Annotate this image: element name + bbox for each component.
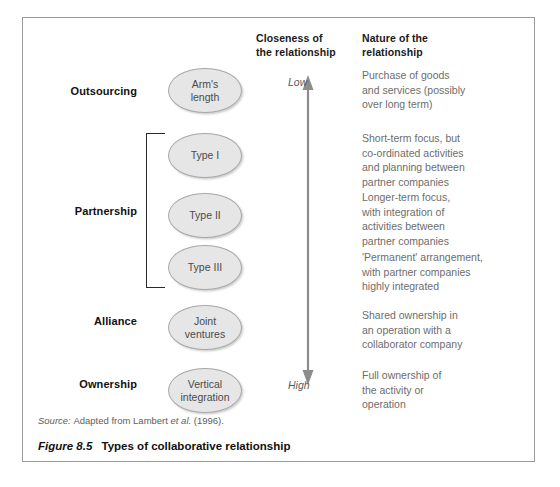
source-etal: et al.	[171, 415, 192, 426]
source-text: Adapted from Lambert	[73, 415, 168, 426]
stage-label-partnership: Partnership	[17, 205, 137, 217]
column-header-nature: Nature of the relationship	[362, 32, 492, 59]
description-type-ii: Longer-term focus, with integration of a…	[362, 190, 514, 248]
double-arrow-icon	[280, 70, 336, 390]
node-label: Arm's length	[191, 78, 220, 104]
node-label: Type III	[188, 261, 222, 274]
stage-label-alliance: Alliance	[17, 315, 137, 327]
figure-title: Types of collaborative relationship	[102, 440, 291, 452]
node-type-iii: Type III	[168, 245, 242, 290]
figure-container: Closeness of the relationship Nature of …	[0, 0, 560, 487]
node-label: Type I	[191, 149, 220, 162]
stage-label-outsourcing: Outsourcing	[17, 85, 137, 97]
description-alliance: Shared ownership in an operation with a …	[362, 308, 514, 352]
description-type-i: Short-term focus, but co-ordinated activ…	[362, 131, 514, 189]
node-arms-length: Arm's length	[168, 68, 242, 113]
node-label: Vertical integration	[180, 378, 229, 404]
source-year: (1996).	[194, 415, 224, 426]
source-prefix: Source:	[38, 415, 71, 426]
column-header-closeness: Closeness of the relationship	[256, 32, 352, 59]
source-note: Source: Adapted from Lambert et al. (199…	[38, 415, 224, 426]
description-outsourcing: Purchase of goods and services (possibly…	[362, 68, 514, 112]
node-label: Type II	[189, 209, 221, 222]
description-type-iii: 'Permanent' arrangement, with partner co…	[362, 250, 514, 294]
partnership-bracket	[146, 133, 165, 288]
node-joint-ventures: Joint ventures	[168, 305, 242, 350]
description-ownership: Full ownership of the activity or operat…	[362, 368, 514, 412]
closeness-arrow	[280, 70, 336, 390]
scale-label-high: High	[288, 379, 310, 391]
figure-caption: Figure 8.5 Types of collaborative relati…	[38, 440, 290, 452]
node-label: Joint ventures	[185, 315, 225, 341]
scale-label-low: Low	[288, 76, 307, 88]
stage-label-ownership: Ownership	[17, 378, 137, 390]
node-type-i: Type I	[168, 133, 242, 178]
node-vertical-integration: Vertical integration	[168, 368, 242, 413]
node-type-ii: Type II	[168, 193, 242, 238]
figure-number: Figure 8.5	[38, 440, 92, 452]
